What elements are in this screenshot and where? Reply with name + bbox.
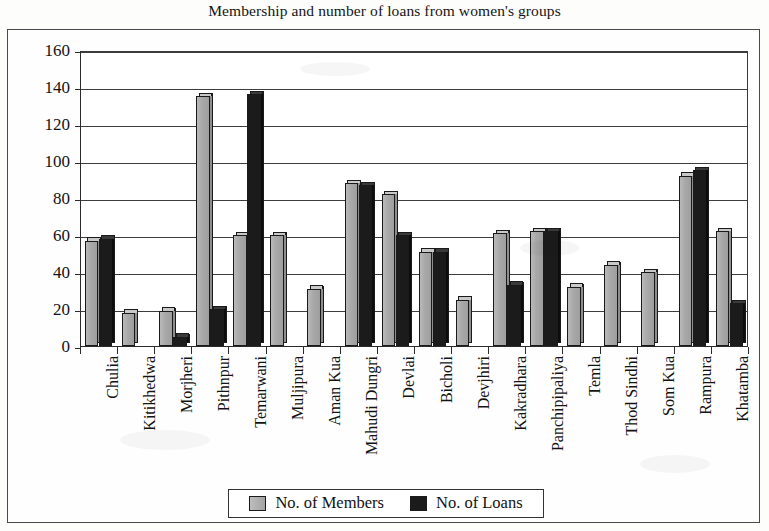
bar-loans: [99, 239, 113, 346]
x-tick-mark: [117, 347, 118, 354]
bar-members: [85, 241, 99, 346]
y-axis-tick-label: 40: [10, 264, 70, 281]
y-axis-tick-label: 160: [10, 42, 70, 59]
y-axis-tick-label: 100: [10, 153, 70, 170]
x-axis-category-label: Devjhiri: [476, 356, 492, 409]
bar-members: [679, 176, 693, 346]
x-axis-category-label: Panchipipaliya: [550, 356, 566, 451]
x-axis-category-label: Muljipura: [290, 356, 306, 420]
x-tick-mark: [340, 347, 341, 354]
bar-members: [567, 287, 581, 346]
y-tick-mark: [75, 126, 81, 127]
x-axis-category-label: Chulia: [105, 356, 121, 399]
bar-side-face: [558, 228, 561, 343]
bar-front-face: [396, 235, 410, 346]
bar-loans: [247, 94, 261, 346]
bar-members: [604, 265, 618, 346]
y-axis-tick-label: 120: [10, 116, 70, 133]
gridline: [81, 237, 747, 238]
x-tick-mark: [303, 347, 304, 354]
bar-side-face: [446, 249, 449, 343]
legend-label-members: No. of Members: [275, 495, 384, 512]
x-tick-mark: [488, 347, 489, 354]
y-axis-tick-label: 20: [10, 301, 70, 318]
bar-front-face: [122, 313, 136, 346]
y-tick-mark: [75, 89, 81, 90]
bar-side-face: [409, 232, 412, 343]
bar-members: [493, 233, 507, 346]
legend-swatch-loans-icon: [410, 496, 427, 511]
y-axis-tick-label: 140: [10, 79, 70, 96]
x-axis-category-label: Bicholi: [439, 356, 455, 403]
gridline: [81, 200, 747, 201]
bar-members: [270, 235, 284, 346]
x-tick-mark: [80, 347, 81, 354]
bar-side-face: [321, 286, 324, 343]
bar-loans: [210, 309, 224, 346]
bar-members: [345, 183, 359, 346]
x-axis-category-label: Rampura: [698, 356, 714, 415]
x-tick-mark: [228, 347, 229, 354]
bar-front-face: [604, 265, 618, 346]
x-tick-mark: [377, 347, 378, 354]
gridline: [81, 89, 747, 90]
x-tick-mark: [674, 347, 675, 354]
bar-loans: [359, 185, 373, 346]
x-tick-mark: [562, 347, 563, 354]
chart-title: Membership and number of loans from wome…: [0, 2, 769, 20]
y-axis-tick-label: 0: [10, 338, 70, 355]
bar-front-face: [679, 176, 693, 346]
bar-front-face: [544, 231, 558, 346]
bar-front-face: [173, 337, 187, 346]
x-axis-category-label: Temarwani: [253, 356, 269, 428]
bar-members: [530, 231, 544, 346]
bar-front-face: [359, 185, 373, 346]
bar-front-face: [247, 94, 261, 346]
chart-page: Membership and number of loans from wome…: [0, 0, 769, 531]
legend-label-loans: No. of Loans: [436, 495, 523, 512]
x-axis-category-label: Morjheri: [179, 356, 195, 413]
y-tick-mark: [75, 237, 81, 238]
bar-members: [716, 231, 730, 346]
bar-front-face: [99, 239, 113, 346]
bar-members: [233, 235, 247, 346]
bar-front-face: [307, 289, 321, 346]
bar-front-face: [716, 231, 730, 346]
bar-members: [419, 252, 433, 346]
bar-members: [641, 272, 655, 346]
bar-members: [456, 300, 470, 346]
bar-loans: [507, 285, 521, 346]
bar-front-face: [382, 194, 396, 346]
legend-entry-loans: No. of Loans: [410, 495, 523, 512]
y-axis-tick-label: 60: [10, 227, 70, 244]
bar-front-face: [730, 303, 744, 346]
x-tick-mark: [525, 347, 526, 354]
legend-entry-members: No. of Members: [249, 495, 384, 512]
x-axis-category-label: Thod Sindhi: [624, 356, 640, 436]
x-tick-mark: [600, 347, 601, 354]
gridline: [81, 52, 747, 53]
bar-front-face: [530, 231, 544, 346]
bar-loans: [433, 252, 447, 346]
x-axis-category-label: Devlai: [401, 356, 417, 399]
bar-loans: [173, 337, 187, 346]
bar-side-face: [618, 262, 621, 343]
bar-front-face: [85, 241, 99, 346]
y-tick-mark: [75, 163, 81, 164]
bar-side-face: [743, 300, 746, 343]
y-tick-mark: [75, 200, 81, 201]
bar-side-face: [112, 236, 115, 343]
bar-front-face: [270, 235, 284, 346]
x-axis-category-label: Kakradhara: [513, 356, 529, 431]
x-tick-mark: [711, 347, 712, 354]
x-axis-category-label: Kitikhedwa: [142, 356, 158, 431]
x-tick-mark: [637, 347, 638, 354]
y-tick-mark: [75, 274, 81, 275]
bar-front-face: [419, 252, 433, 346]
bar-front-face: [641, 272, 655, 346]
bar-front-face: [693, 170, 707, 346]
gridline: [81, 126, 747, 127]
bar-loans: [396, 235, 410, 346]
x-axis-category-label: Temla: [587, 356, 603, 396]
bar-front-face: [433, 252, 447, 346]
